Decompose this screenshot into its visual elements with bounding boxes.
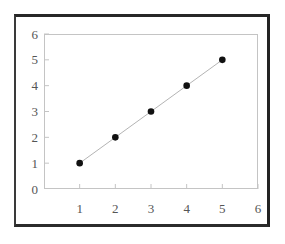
x-axis-tick-label: 6: [249, 202, 267, 215]
x-axis-tick-label: 2: [106, 202, 124, 215]
x-axis-tick-labels: 123456: [0, 0, 285, 244]
x-axis-tick-label: 3: [142, 202, 160, 215]
x-axis-tick-label: 5: [213, 202, 231, 215]
figure-container: 0123456 123456: [0, 0, 285, 244]
x-axis-tick-label: 4: [178, 202, 196, 215]
x-axis-tick-label: 1: [71, 202, 89, 215]
